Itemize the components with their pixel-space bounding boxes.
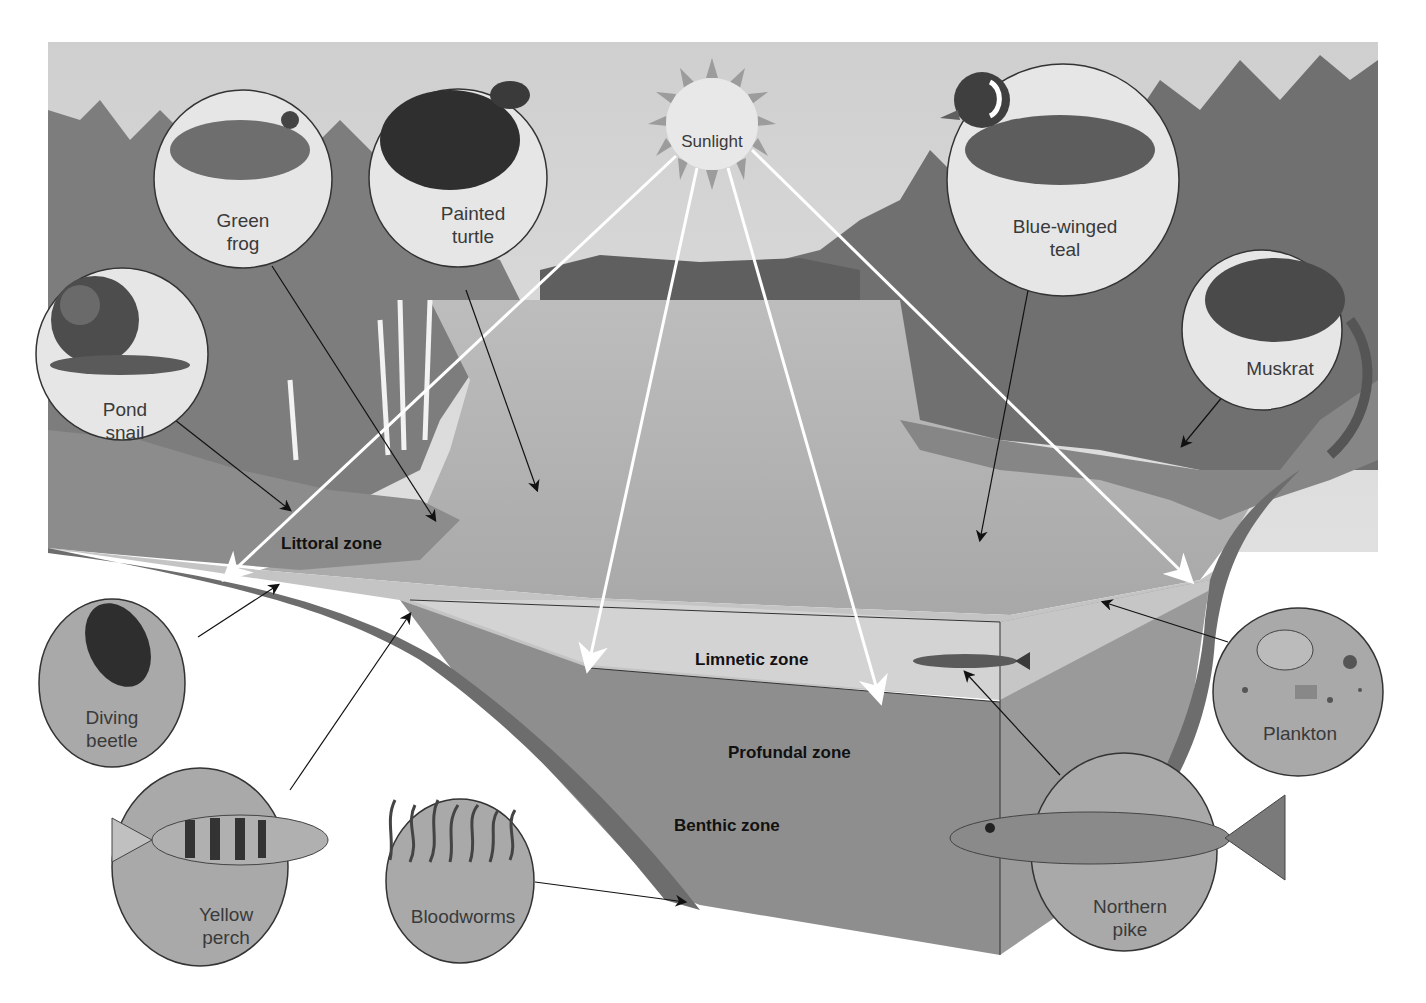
painted-turtle-label: Painted turtle: [413, 202, 533, 248]
bloodworms-label: Bloodworms: [388, 905, 538, 928]
sunlight-label: Sunlight: [662, 130, 762, 153]
limnetic-zone-label: Limnetic zone: [695, 650, 808, 670]
profundal-zone-label: Profundal zone: [728, 743, 851, 763]
yellow-perch-label: Yellow perch: [166, 903, 286, 949]
blue-winged-teal-label: Blue-winged teal: [990, 215, 1140, 261]
littoral-zone-label: Littoral zone: [281, 534, 382, 554]
diving-beetle-label: Diving beetle: [67, 706, 157, 752]
pond-snail-label: Pond snail: [75, 398, 175, 444]
northern-pike-label: Northern pike: [1075, 895, 1185, 941]
benthic-zone-label: Benthic zone: [674, 816, 780, 836]
muskrat-label: Muskrat: [1220, 357, 1340, 380]
lake-zones-diagram: Sunlight Littoral zone Limnetic zone Pro…: [0, 0, 1426, 1003]
green-frog-label: Green frog: [183, 209, 303, 255]
plankton-label: Plankton: [1245, 722, 1355, 745]
